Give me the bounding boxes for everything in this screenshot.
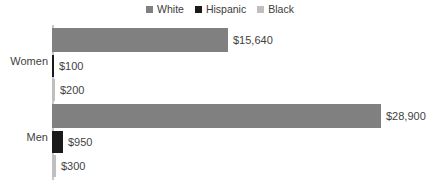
chart-legend: White Hispanic Black bbox=[0, 3, 440, 16]
bar-row-men-black: $300 bbox=[52, 155, 85, 177]
legend-item-black[interactable]: Black bbox=[257, 4, 294, 15]
bar-chart: White Hispanic Black Women $15,640 $100 bbox=[0, 0, 440, 192]
legend-swatch-hispanic bbox=[195, 6, 202, 13]
bar-row-men-hispanic: $950 bbox=[52, 131, 92, 153]
legend-label-hispanic: Hispanic bbox=[206, 4, 246, 15]
legend-item-white[interactable]: White bbox=[146, 4, 184, 15]
bar-row-women-black: $200 bbox=[52, 79, 84, 101]
bar-row-women-hispanic: $100 bbox=[52, 55, 83, 77]
legend-swatch-white bbox=[146, 6, 153, 13]
bar-row-men-white: $28,900 bbox=[52, 104, 426, 128]
legend-swatch-black bbox=[257, 6, 264, 13]
bar-group-women: Women $15,640 $100 $200 bbox=[0, 25, 440, 101]
legend-label-black: Black bbox=[268, 4, 294, 15]
bar-label-women-white: $15,640 bbox=[233, 34, 273, 47]
category-label-women: Women bbox=[0, 55, 48, 68]
legend-item-hispanic[interactable]: Hispanic bbox=[195, 4, 246, 15]
bar-label-women-hispanic: $100 bbox=[59, 60, 83, 73]
bar-label-men-hispanic: $950 bbox=[68, 136, 92, 149]
bar-women-black[interactable] bbox=[52, 79, 55, 101]
legend-label-white: White bbox=[157, 4, 184, 15]
plot-area: Women $15,640 $100 $200 Men $28,900 bbox=[0, 20, 440, 192]
category-label-men: Men bbox=[0, 131, 48, 144]
bar-women-white[interactable] bbox=[52, 28, 228, 52]
bar-women-hispanic[interactable] bbox=[52, 55, 54, 77]
bar-group-men: Men $28,900 $950 $300 bbox=[0, 101, 440, 177]
bar-row-women-white: $15,640 bbox=[52, 28, 273, 52]
bar-label-men-white: $28,900 bbox=[386, 110, 426, 123]
bar-men-black[interactable] bbox=[52, 155, 56, 177]
bar-men-hispanic[interactable] bbox=[52, 131, 63, 153]
bar-label-women-black: $200 bbox=[60, 84, 84, 97]
bar-label-men-black: $300 bbox=[61, 160, 85, 173]
bar-men-white[interactable] bbox=[52, 104, 381, 128]
